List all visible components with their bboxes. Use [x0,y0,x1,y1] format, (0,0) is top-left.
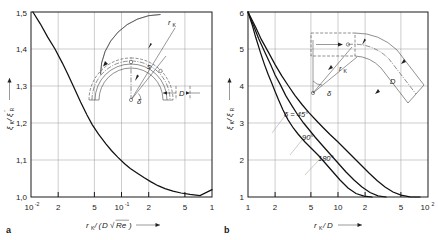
panel-a-ytick-4: 1,4 [16,45,28,54]
panel-b-ytick-5: 6 [240,9,245,18]
panel-a-ylabel-den-sub: R [9,108,15,112]
panel-a-gridlines-vertical [58,12,185,197]
panel-a-xticks [58,192,185,197]
svg-text:/: / [225,118,234,122]
panel-a-ylabel-den: ξ [5,113,14,117]
panel-a-xtick-5: 5 [183,203,188,212]
panel-a-xlabel-num: r [86,221,89,230]
panel-a-xtick-0-exp: -2 [35,201,40,207]
svg-text:): ) [128,221,132,230]
panel-b-label-rk-sub: K [344,68,348,74]
panel-a-letter: a [6,225,12,235]
svg-text:√: √ [110,221,115,230]
panel-b-label-rk: r [339,64,342,73]
panel-b-bend-diagram: r K δ D [311,33,424,103]
panel-b-ytick-3: 4 [240,82,245,91]
panel-b-ylabel-den: ξ [225,113,234,117]
panel-a-label-rk: r [168,18,171,27]
panel-b-gridlines-vertical [275,12,401,197]
panel-b-xtick-6-exp: 2 [432,201,435,207]
panel-a-label-D: D [179,89,185,98]
panel-a-ytick-5: 1,5 [16,9,28,18]
svg-text:D: D [102,221,108,230]
svg-text:/: / [94,221,98,230]
panel-a-ytick-2: 1,2 [16,119,28,128]
panel-a-ytick-3: 1,3 [16,82,28,91]
panel-b-xtick-1: 2 [273,203,278,212]
panel-b-curve-180 [248,12,420,197]
panel-b-curve-label-45: δ = 45° [284,110,308,119]
panel-b-xtick-5: 5 [399,203,404,212]
panel-b-ytick-1: 2 [240,156,245,165]
svg-text:/: / [5,118,14,122]
panel-a-xlabel: r K / ( D √ Re ) [86,220,160,231]
panel-b-ylabel: ξ K / ξ R [225,78,235,130]
panel-b-ytick-2: 3 [240,119,245,128]
panel-a-ylabel: ξ K / ξ R ' [3,78,15,130]
figure-svg: 1,0 1,1 1,2 1,3 1,4 1,5 10 -2 2 5 10 -1 … [0,0,438,240]
panel-b-xtick-3: 10 [334,203,343,212]
panel-b-ytick-4: 5 [240,45,245,54]
panel-a-xtick-0: 10 [25,203,34,212]
panel-a-label-delta: δ [137,97,142,106]
panel-a-xtick-6: 1 [210,203,215,212]
svg-text:/: / [322,221,326,230]
panel-a-xtick-1: 2 [56,203,61,212]
panel-a-ytick-1: 1,1 [16,156,28,165]
panel-b-xtick-labels: 1 2 5 10 2 5 10 2 [246,201,435,212]
panel-b-ytick-0: 1 [240,193,245,202]
panel-b: 1 2 3 4 5 6 1 2 5 10 2 5 10 2 ξ K / ξ R [224,9,435,235]
panel-b-curve-labels: δ = 45° 90° 180° [272,110,334,175]
panel-a-label-rk-sub: K [173,22,177,28]
panel-a-ytick-0: 1,0 [16,193,28,202]
panel-b-xtick-2: 5 [309,203,314,212]
panel-a-ylabel-num: ξ [5,126,14,130]
panel-b-xlabel-num: r [314,221,317,230]
panel-b-ylabel-den-sub: R [229,108,235,112]
svg-text:Re: Re [116,221,127,230]
panel-a-xtick-4: 2 [146,203,151,212]
panel-a-xtick-3-exp: -1 [125,201,130,207]
panel-b-letter: b [224,225,230,235]
panel-b-xtick-4: 2 [363,203,368,212]
panel-b-curve-label-90: 90° [302,133,313,142]
panel-a-xtick-2: 5 [92,203,97,212]
panel-b-xtick-6: 10 [421,203,430,212]
panel-a-label-s: s [147,62,151,71]
panel-b-xlabel-den: D [327,221,333,230]
panel-b-curve-label-180: 180° [318,154,334,163]
panel-a-ytick-labels: 1,0 1,1 1,2 1,3 1,4 1,5 [16,9,28,202]
panel-a-xtick-labels: 10 -2 2 5 10 -1 2 5 1 [25,201,215,212]
panel-a-xtick-3: 10 [115,203,124,212]
panel-b-label-delta: δ [327,89,332,98]
panel-b-xlabel: r K / D [314,221,362,231]
panel-a: 1,0 1,1 1,2 1,3 1,4 1,5 10 -2 2 5 10 -1 … [3,9,215,235]
panel-b-ylabel-num: ξ [225,126,234,130]
panel-a-ylabel-den-prime: ' [3,111,9,112]
panel-a-bend-diagram: r K s δ D [89,15,200,107]
panel-b-xtick-0: 1 [246,203,251,212]
panel-b-label-D: D [390,77,396,86]
panel-b-ytick-labels: 1 2 3 4 5 6 [240,9,245,202]
figure-root: 1,0 1,1 1,2 1,3 1,4 1,5 10 -2 2 5 10 -1 … [0,0,438,240]
